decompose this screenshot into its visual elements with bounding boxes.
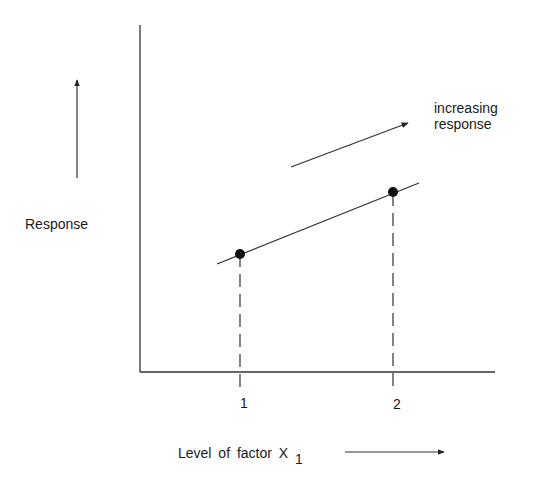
x-axis-label-subscript: 1 [295,451,303,467]
trend-label-line2: response [434,116,492,132]
main-effect-diagram: 1 2 Response increasing response Level o… [0,0,536,487]
x-axis-label: Level of factor X 1 [178,445,303,467]
data-point-level-1 [235,249,245,259]
tick-label-2: 2 [393,396,401,412]
axes [140,25,495,372]
x-axis-label-text: Level of factor X [178,445,289,461]
y-axis-label: Response [25,216,88,232]
tick-label-1: 1 [240,395,248,411]
trend-arrow-icon [291,123,408,167]
effect-line [217,183,419,264]
trend-label-line1: increasing [434,100,498,116]
data-point-level-2 [388,187,398,197]
